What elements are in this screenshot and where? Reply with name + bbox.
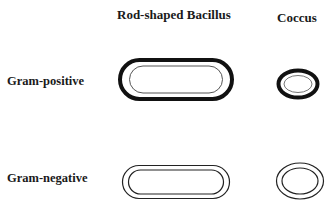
gram-positive-rod-shape — [120, 60, 232, 99]
gram-positive-coccus-shape — [279, 71, 318, 98]
cell-shape-diagram — [0, 0, 329, 208]
gram-negative-rod-shape — [123, 166, 230, 199]
gram-negative-coccus-shape — [277, 163, 324, 199]
